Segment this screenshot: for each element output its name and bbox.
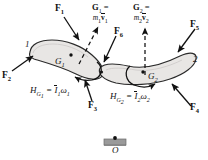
equals-1: = [104,2,109,12]
label-F1: F1 [55,4,64,15]
cg-1-marker [69,53,72,56]
label-linear-momentum-2: G2 = m2v2 [133,3,150,24]
label-support-O: O [112,146,119,155]
force-arrow-F5 [178,29,195,52]
label-angular-momentum-1: HG1 = I1ω1 [30,86,70,99]
label-cg-2: G2 [148,72,158,83]
force-arrow-F2 [12,56,33,71]
momentum-diagram: F1 F2 F3 F4 F5 F6 1 2 G1 G2 G1 = [0,0,208,160]
label-F4: F4 [190,103,199,114]
label-linear-momentum-1: G1 = m1v1 [92,3,109,24]
support-pin-dot [113,136,117,140]
label-body-1-number: 1 [25,40,30,49]
force-arrow-F6 [104,36,116,62]
force-arrow-F3 [85,80,92,101]
cg-2-marker [141,70,144,73]
body-1-link [29,40,102,79]
label-body-2-number: 2 [193,55,198,64]
label-cg-1: G1 [55,57,65,68]
force-arrow-F1 [64,17,79,40]
force-arrow-F4 [172,84,191,106]
label-F6: F6 [114,27,123,38]
label-F3: F3 [88,101,97,112]
G2-symbol: G [133,2,140,12]
diagram-canvas [0,0,208,160]
label-angular-momentum-2: HG2 = I2ω2 [110,92,150,105]
equals-2: = [145,2,150,12]
G1-symbol: G [92,2,99,12]
label-F2: F2 [2,71,11,82]
label-F5: F5 [190,20,199,31]
